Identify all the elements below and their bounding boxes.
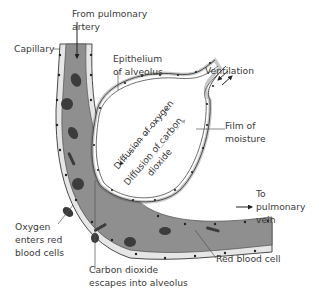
gas-exchange-diagram: From pulmonary artery Capillary Epitheli… (0, 0, 319, 300)
label-to-pulmonary-vein: To pulmonary vein (255, 188, 308, 225)
label-film-of-moisture: Film of moisture (225, 120, 266, 144)
label-co2-escapes: Carbon dioxide escapes into alveolus (89, 264, 188, 288)
label-epithelium: Epithelium of alveolus (113, 53, 165, 77)
label-capillary: Capillary (14, 43, 55, 54)
label-red-blood-cell: Red blood cell (216, 253, 281, 264)
alveolus (92, 60, 226, 202)
label-from-pulmonary-artery: From pulmonary artery (72, 8, 150, 32)
label-oxygen-enters: Oxygen enters red blood cells (15, 221, 65, 258)
label-ventilation: Ventilation (205, 65, 254, 76)
